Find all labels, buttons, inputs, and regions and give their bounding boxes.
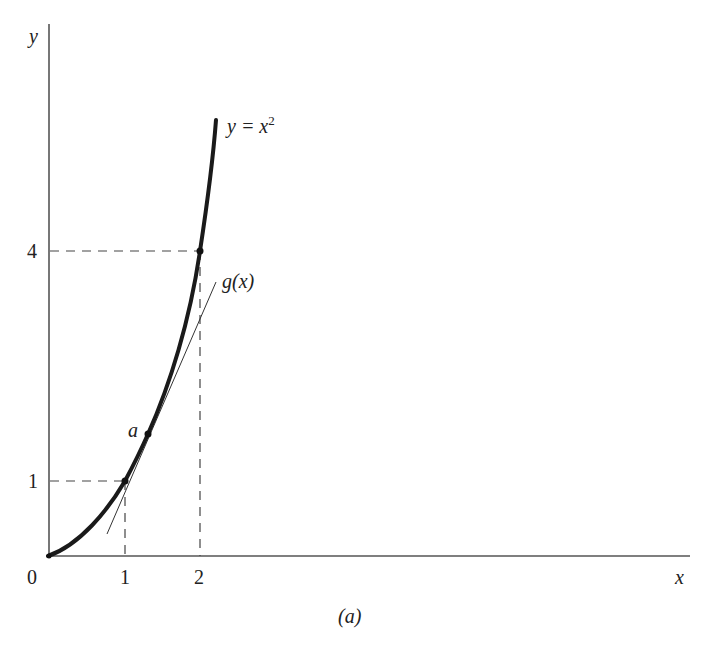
y-tick-4: 4 <box>27 241 37 261</box>
y-tick-1: 1 <box>28 471 38 491</box>
curve-label-text: y = x <box>227 115 268 137</box>
origin-label: 0 <box>27 567 37 587</box>
figure-caption: (a) <box>338 606 361 626</box>
parabola-curve <box>48 120 216 556</box>
point-origin <box>47 554 52 559</box>
curve-label: y = x2 <box>227 114 275 136</box>
x-tick-1: 1 <box>120 567 130 587</box>
x-tick-2: 2 <box>194 567 204 587</box>
point-a-label: a <box>128 420 138 440</box>
point-1-1 <box>122 478 129 485</box>
point-a <box>145 431 152 438</box>
dashed-guides <box>50 251 200 556</box>
curve-label-exponent: 2 <box>268 113 275 128</box>
figure-plot <box>0 0 704 658</box>
point-2-4 <box>197 248 204 255</box>
tangent-label: g(x) <box>222 271 254 291</box>
x-axis-label: x <box>675 567 684 587</box>
y-axis-label: y <box>29 26 38 46</box>
